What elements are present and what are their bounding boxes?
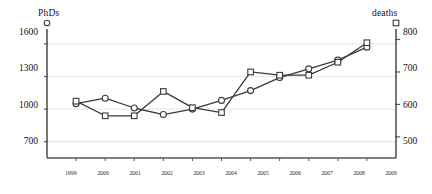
data-point-deaths-2004 <box>219 110 225 116</box>
data-point-deaths-2002 <box>161 89 167 95</box>
data-point-phds-2000 <box>102 95 108 101</box>
data-point-phds-2005 <box>248 88 254 94</box>
data-point-deaths-2009 <box>364 40 370 46</box>
data-point-phds-2002 <box>160 112 166 118</box>
data-series-layer <box>73 40 370 119</box>
data-point-phds-2001 <box>131 105 137 111</box>
chart-container: PhDs deaths 1600 1300 1000 700 800 700 6… <box>0 0 432 194</box>
axis-lines <box>44 29 400 161</box>
series-line-phds <box>76 47 367 114</box>
gridlines <box>47 44 398 142</box>
data-point-phds-2007 <box>306 66 312 72</box>
circle-marker-icon <box>44 20 50 26</box>
square-marker-icon <box>393 20 399 26</box>
data-point-deaths-2006 <box>277 72 283 78</box>
data-point-deaths-2008 <box>335 59 341 65</box>
data-point-deaths-2003 <box>190 105 196 111</box>
data-point-deaths-2000 <box>102 113 108 119</box>
series-line-deaths <box>76 43 367 116</box>
legend-markers <box>44 20 399 26</box>
data-point-deaths-2005 <box>248 69 254 75</box>
data-point-phds-2004 <box>219 97 225 103</box>
plot-area <box>0 0 432 194</box>
data-point-deaths-2001 <box>131 113 137 119</box>
data-point-deaths-1999 <box>73 98 79 104</box>
data-point-deaths-2007 <box>306 72 312 78</box>
